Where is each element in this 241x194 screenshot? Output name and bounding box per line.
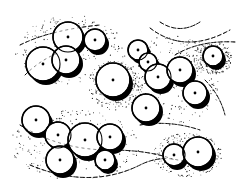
stipple-dot	[133, 96, 134, 97]
stipple-dot	[85, 22, 86, 23]
stipple-dot	[188, 40, 189, 41]
stipple-dot	[95, 58, 96, 59]
stipple-dot	[136, 89, 137, 90]
stipple-dot	[169, 143, 170, 144]
stipple-dot	[145, 83, 146, 84]
stipple-dot	[22, 149, 23, 150]
stipple-dot	[198, 66, 199, 67]
stipple-dot	[136, 76, 137, 77]
stipple-dot	[59, 81, 60, 82]
stipple-dot	[37, 165, 38, 166]
stipple-dot	[181, 138, 182, 139]
stipple-dot	[80, 78, 81, 79]
stipple-dot	[62, 81, 63, 82]
trunk-dot-icon	[67, 36, 70, 39]
stipple-dot	[95, 90, 96, 91]
stipple-dot	[218, 152, 219, 153]
stipple-dot	[177, 134, 178, 135]
stipple-dot	[44, 158, 45, 159]
stipple-dot	[44, 21, 45, 22]
stipple-dot	[184, 46, 185, 47]
stipple-dot	[158, 97, 159, 98]
stipple-dot	[204, 47, 205, 48]
stipple-dot	[69, 79, 70, 80]
stipple-dot	[163, 169, 164, 170]
stipple-dot	[200, 59, 201, 60]
stipple-dot	[89, 77, 90, 78]
stipple-dot	[101, 94, 102, 95]
stipple-dot	[17, 131, 18, 132]
stipple-dot	[47, 39, 48, 40]
trunk-dot-icon	[104, 159, 107, 162]
stipple-dot	[92, 93, 93, 94]
stipple-dot	[135, 73, 136, 74]
stipple-dot	[28, 149, 29, 150]
stipple-dot	[181, 113, 182, 114]
stipple-dot	[216, 155, 217, 156]
trunk-dot-icon	[35, 119, 38, 122]
stipple-dot	[135, 74, 136, 75]
stipple-dot	[129, 68, 130, 69]
stipple-dot	[92, 22, 93, 23]
stipple-dot	[212, 167, 213, 168]
stipple-dot	[218, 157, 219, 158]
trunk-dot-icon	[145, 107, 148, 110]
stipple-dot	[113, 33, 114, 34]
stipple-dot	[143, 79, 144, 80]
stipple-dot	[203, 70, 204, 71]
stipple-dot	[22, 148, 23, 149]
stipple-dot	[217, 89, 218, 90]
stipple-dot	[36, 26, 37, 27]
stipple-dot	[23, 54, 24, 55]
stipple-dot	[82, 110, 83, 111]
stipple-dot	[228, 60, 229, 61]
stipple-dot	[203, 171, 204, 172]
stipple-dot	[125, 64, 126, 65]
stipple-dot	[170, 50, 171, 51]
stipple-dot	[225, 55, 226, 56]
tree-canopies	[20, 22, 235, 178]
stipple-dot	[207, 109, 208, 110]
stipple-dot	[131, 135, 132, 136]
stipple-dot	[230, 57, 231, 58]
stipple-dot	[31, 163, 32, 164]
stipple-dot	[23, 55, 24, 56]
stipple-dot	[55, 22, 56, 23]
trunk-dot-icon	[173, 154, 176, 157]
stipple-dot	[196, 55, 197, 56]
stipple-dot	[89, 90, 90, 91]
stipple-dot	[164, 139, 165, 140]
stipple-dot	[159, 152, 160, 153]
stipple-dot	[203, 46, 204, 47]
stipple-dot	[70, 120, 71, 121]
stipple-dot	[169, 168, 170, 169]
stipple-dot	[180, 53, 181, 54]
stipple-dot	[57, 178, 58, 179]
stipple-dot	[160, 52, 161, 53]
stipple-dot	[135, 80, 136, 81]
stipple-dot	[34, 163, 35, 164]
stipple-dot	[160, 167, 161, 168]
stipple-dot	[129, 100, 130, 101]
stipple-dot	[26, 50, 27, 51]
stipple-dot	[113, 46, 114, 47]
stipple-dot	[208, 72, 209, 73]
stipple-dot	[177, 36, 178, 37]
stipple-dot	[168, 138, 169, 139]
stipple-dot	[37, 171, 38, 172]
stipple-dot	[177, 142, 178, 143]
stipple-dot	[181, 90, 182, 91]
stipple-dot	[154, 160, 155, 161]
stipple-dot	[85, 114, 86, 115]
stipple-dot	[160, 94, 161, 95]
stipple-dot	[16, 136, 17, 137]
stipple-dot	[185, 169, 186, 170]
stipple-dot	[225, 47, 226, 48]
stipple-dot	[50, 28, 51, 29]
stipple-dot	[184, 168, 185, 169]
stipple-dot	[215, 88, 216, 89]
stipple-dot	[42, 145, 43, 146]
stipple-dot	[212, 72, 213, 73]
stipple-dot	[18, 154, 19, 155]
stipple-dot	[210, 170, 211, 171]
